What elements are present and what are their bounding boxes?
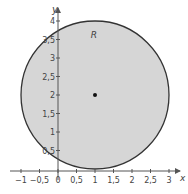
region-label: R <box>91 30 97 40</box>
x-tick-label: −0,5 <box>30 176 49 185</box>
y-tick-label: 4 <box>50 17 55 26</box>
y-tick-label: 3,5 <box>42 36 55 45</box>
x-tick-label: 0,5 <box>70 176 83 185</box>
y-tick-label: 2,5 <box>42 73 55 82</box>
x-tick-label: 0 <box>55 176 60 185</box>
x-tick-labels: −1 −0,5 0 0,5 1 1,5 2 2,5 3 <box>15 176 171 185</box>
y-tick-label: 2 <box>50 91 55 100</box>
y-axis-label: y <box>51 4 59 15</box>
x-tick-label: 2 <box>129 176 134 185</box>
x-axis-label: x <box>179 173 186 183</box>
x-tick-label: 1 <box>92 176 97 185</box>
center-point <box>93 93 97 97</box>
y-tick-label: 0,5 <box>42 147 55 156</box>
y-tick-label: 1 <box>50 128 55 137</box>
y-tick-label: 3 <box>50 54 55 63</box>
y-tick-label: 1,5 <box>42 110 55 119</box>
x-tick-label: 1,5 <box>107 176 120 185</box>
x-tick-label: −1 <box>15 176 27 185</box>
disk-region-diagram: −1 −0,5 0 0,5 1 1,5 2 2,5 3 0,5 1 1,5 2 … <box>0 0 188 194</box>
x-tick-label: 3 <box>166 176 171 185</box>
x-tick-label: 2,5 <box>144 176 157 185</box>
